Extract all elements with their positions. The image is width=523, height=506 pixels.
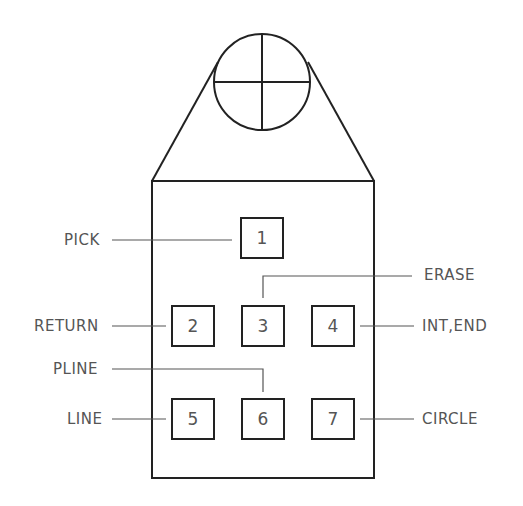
button-number: 5 xyxy=(188,409,199,429)
puck-button-7: 7 xyxy=(311,398,355,440)
label-pick: PICK xyxy=(64,233,100,248)
button-number: 1 xyxy=(257,228,268,248)
button-number: 4 xyxy=(328,316,339,336)
label-pline: PLINE xyxy=(53,362,98,377)
button-number: 3 xyxy=(258,316,269,336)
puck-button-5: 5 xyxy=(171,398,215,440)
puck-button-4: 4 xyxy=(311,305,355,347)
label-circle: CIRCLE xyxy=(422,412,478,427)
puck-button-1: 1 xyxy=(240,217,284,259)
label-erase: ERASE xyxy=(424,268,475,283)
puck-button-6: 6 xyxy=(241,398,285,440)
button-number: 6 xyxy=(258,409,269,429)
puck-button-2: 2 xyxy=(171,305,215,347)
button-number: 2 xyxy=(188,316,199,336)
label-line: LINE xyxy=(67,412,102,427)
puck-button-3: 3 xyxy=(241,305,285,347)
label-int-end: INT,END xyxy=(422,319,487,334)
label-return: RETURN xyxy=(34,319,99,334)
button-number: 7 xyxy=(328,409,339,429)
